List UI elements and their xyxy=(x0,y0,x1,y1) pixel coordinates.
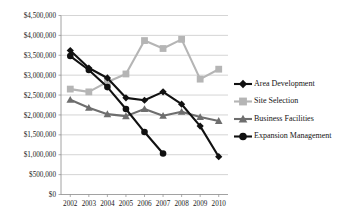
legend-label: Business Facilities xyxy=(254,114,314,123)
legend-label: Site Selection xyxy=(254,96,298,105)
chart-legend: Area DevelopmentSite SelectionBusiness F… xyxy=(234,79,332,141)
y-tick-label: $2,000,000 xyxy=(24,112,57,120)
chart-container: $0$500,000$1,000,000$1,500,000$2,000,000… xyxy=(0,0,361,217)
legend-item-business-facilities[interactable]: Business Facilities xyxy=(234,114,314,123)
x-tick-label: 2002 xyxy=(63,200,78,208)
data-point-marker xyxy=(160,45,167,52)
data-point-marker xyxy=(141,105,149,112)
legend-item-expansion-management[interactable]: Expansion Management xyxy=(234,131,332,140)
x-axis-ticks xyxy=(59,16,219,198)
y-tick-label: $3,000,000 xyxy=(24,72,57,80)
x-tick-label: 2004 xyxy=(100,200,115,208)
series-line xyxy=(70,39,218,92)
data-point-marker xyxy=(66,96,74,103)
data-point-marker xyxy=(67,53,74,60)
x-tick-label: 2005 xyxy=(119,200,134,208)
legend-label: Expansion Management xyxy=(254,131,332,140)
y-tick-label: $0 xyxy=(49,191,57,199)
line-chart: $0$500,000$1,000,000$1,500,000$2,000,000… xyxy=(0,0,361,217)
x-tick-label: 2006 xyxy=(137,200,152,208)
legend-item-site-selection[interactable]: Site Selection xyxy=(234,96,298,105)
data-point-marker xyxy=(141,129,148,136)
y-tick-label: $1,000,000 xyxy=(24,151,57,159)
y-tick-label: $1,500,000 xyxy=(24,131,57,139)
data-point-marker xyxy=(239,80,247,88)
y-tick-label: $500,000 xyxy=(29,171,56,179)
data-point-marker xyxy=(85,88,92,95)
data-point-marker xyxy=(141,97,148,104)
data-point-marker xyxy=(197,76,204,83)
data-point-marker xyxy=(86,67,93,74)
data-point-marker xyxy=(104,84,111,91)
series-site-selection xyxy=(67,36,222,95)
data-point-marker xyxy=(178,36,185,43)
legend-item-area-development[interactable]: Area Development xyxy=(234,79,315,88)
data-point-marker xyxy=(215,66,222,73)
x-axis-tick-labels: 200220032004200520062007200820092010 xyxy=(63,200,226,208)
data-point-marker xyxy=(67,86,74,93)
y-tick-label: $3,500,000 xyxy=(24,52,57,60)
data-point-marker xyxy=(239,133,247,141)
x-tick-label: 2003 xyxy=(82,200,97,208)
data-point-marker xyxy=(239,98,247,106)
x-tick-label: 2009 xyxy=(193,200,208,208)
series-area-development xyxy=(67,47,223,160)
x-tick-label: 2008 xyxy=(174,200,189,208)
y-axis-tick-labels: $0$500,000$1,000,000$1,500,000$2,000,000… xyxy=(24,12,57,199)
y-tick-label: $2,500,000 xyxy=(24,92,57,100)
x-tick-label: 2010 xyxy=(212,200,227,208)
y-tick-label: $4,000,000 xyxy=(24,32,57,40)
y-tick-label: $4,500,000 xyxy=(24,12,57,20)
data-point-marker xyxy=(123,71,130,78)
chart-screenshot: $0$500,000$1,000,000$1,500,000$2,000,000… xyxy=(0,0,361,217)
data-point-marker xyxy=(160,150,167,157)
legend-label: Area Development xyxy=(254,79,315,88)
data-series xyxy=(66,36,222,160)
data-point-marker xyxy=(123,106,130,113)
x-tick-label: 2007 xyxy=(156,200,171,208)
data-point-marker xyxy=(141,37,148,44)
